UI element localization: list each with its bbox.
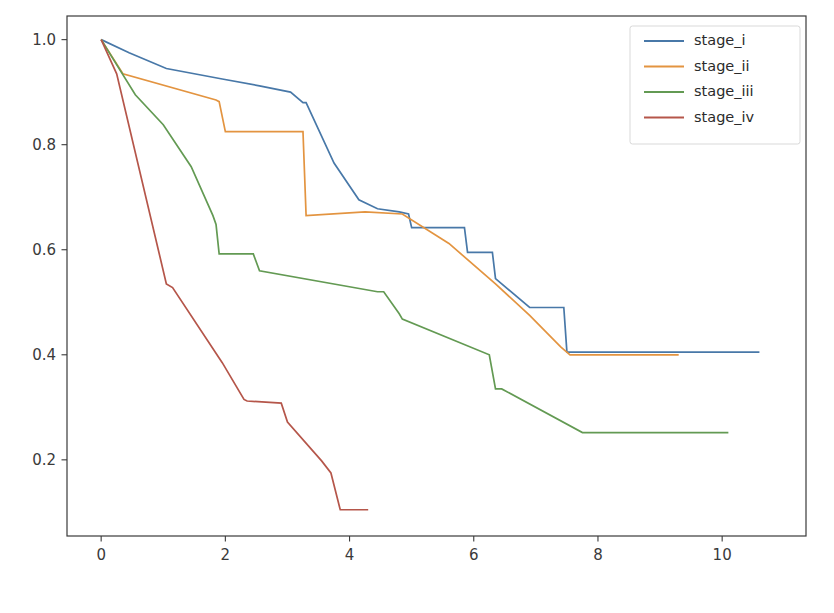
y-axis-ticks: 0.20.40.60.81.0 xyxy=(32,31,67,469)
legend-label-stage-ii: stage_ii xyxy=(694,58,750,74)
legend-label-stage-i: stage_i xyxy=(694,32,746,48)
legend-label-stage-iv: stage_iv xyxy=(694,109,755,125)
x-tick-label: 8 xyxy=(593,546,603,564)
x-tick-label: 2 xyxy=(221,546,231,564)
x-tick-label: 0 xyxy=(96,546,106,564)
figure-canvas: 0246810 0.20.40.60.81.0 stage_istage_iis… xyxy=(0,0,834,613)
x-tick-label: 4 xyxy=(345,546,355,564)
legend-label-stage-iii: stage_iii xyxy=(694,83,754,99)
y-tick-label: 1.0 xyxy=(32,31,56,49)
x-tick-label: 6 xyxy=(469,546,479,564)
chart-legend: stage_istage_iistage_iiistage_iv xyxy=(630,26,800,144)
y-tick-label: 0.2 xyxy=(32,451,56,469)
y-tick-label: 0.6 xyxy=(32,241,56,259)
y-tick-label: 0.4 xyxy=(32,346,56,364)
survival-curve-chart: 0246810 0.20.40.60.81.0 stage_istage_iis… xyxy=(0,0,834,613)
x-axis-ticks: 0246810 xyxy=(96,536,731,564)
y-tick-label: 0.8 xyxy=(32,136,56,154)
x-tick-label: 10 xyxy=(713,546,732,564)
